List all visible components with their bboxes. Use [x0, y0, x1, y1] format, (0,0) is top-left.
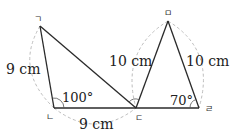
label-side-nd: 9 cm: [79, 116, 113, 132]
label-angle-n: 100°: [62, 90, 93, 105]
geometry-diagram: 9 cm 9 cm 10 cm 10 cm 100° 70° ㄱ ㄴ ㄷ ㄹ ㅁ: [0, 0, 232, 136]
label-side-gn: 9 cm: [6, 61, 40, 77]
label-side-mr: 10 cm: [186, 53, 229, 69]
vertex-label-m: ㅁ: [164, 8, 172, 18]
edge-gn: [40, 26, 54, 108]
vertex-label-d: ㄷ: [135, 113, 143, 123]
vertex-label-r: ㄹ: [205, 104, 213, 114]
label-side-md: 10 cm: [109, 53, 152, 69]
vertex-label-n: ㄴ: [46, 112, 54, 122]
vertex-label-g: ㄱ: [34, 14, 42, 24]
label-angle-r: 70°: [170, 93, 193, 108]
